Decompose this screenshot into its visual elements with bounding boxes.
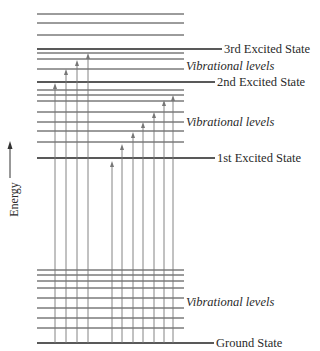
transition-arrow — [110, 161, 114, 343]
vibrational-label-3rd: Vibrational levels — [186, 59, 274, 73]
state-label-3rd-excited: 3rd Excited State — [224, 42, 310, 56]
transition-arrow — [131, 132, 135, 343]
state-label-1st-excited: 1st Excited State — [217, 151, 301, 165]
vibrational-label-2nd: Vibrational levels — [186, 115, 274, 129]
transition-arrow — [75, 60, 79, 343]
transition-arrow — [64, 69, 68, 343]
vibrational-level-lines — [37, 14, 184, 328]
state-label-2nd-excited: 2nd Excited State — [217, 75, 305, 89]
transition-arrow — [162, 100, 166, 343]
transition-arrow — [120, 144, 124, 343]
vibrational-label-ground: Vibrational levels — [186, 295, 274, 309]
energy-axis-arrow — [8, 141, 13, 178]
energy-axis-label: Energy — [7, 178, 22, 222]
transition-arrow — [171, 95, 175, 343]
state-label-ground: Ground State — [216, 336, 282, 350]
transition-arrow — [86, 53, 90, 343]
transition-arrow — [141, 122, 145, 343]
transition-arrows — [53, 53, 175, 343]
